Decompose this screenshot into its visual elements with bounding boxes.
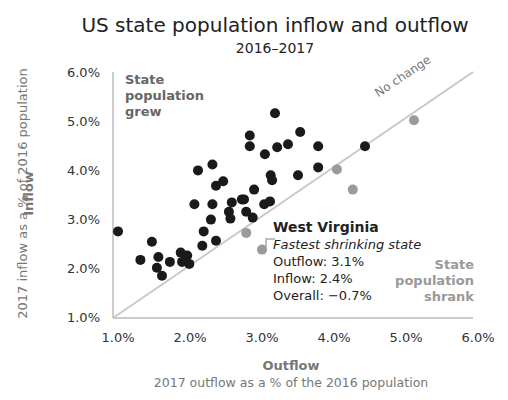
data-point (199, 226, 209, 236)
data-point (206, 215, 216, 225)
data-point (293, 170, 303, 180)
data-point (409, 115, 419, 125)
data-point (245, 131, 255, 141)
data-point (197, 241, 207, 251)
region-grew-line: State (125, 72, 215, 88)
data-point (207, 160, 217, 170)
data-point (248, 213, 258, 223)
data-point (153, 252, 163, 262)
scatter-plot (0, 0, 508, 400)
annotation-outflow: Outflow: 3.1% (273, 253, 421, 270)
data-point (193, 165, 203, 175)
data-point (283, 139, 293, 149)
data-point (165, 257, 175, 267)
data-point (249, 185, 259, 195)
data-point (211, 236, 221, 246)
data-point (225, 214, 235, 224)
data-point (241, 228, 251, 238)
data-point (313, 141, 323, 151)
west-virginia-annotation: West Virginia Fastest shrinking state Ou… (273, 219, 421, 304)
data-point (147, 237, 157, 247)
data-point (270, 108, 280, 118)
region-grew-line: population (125, 88, 215, 104)
data-point (313, 162, 323, 172)
data-point (360, 141, 370, 151)
data-point (267, 175, 277, 185)
data-point (207, 199, 217, 209)
data-point (239, 194, 249, 204)
data-point (227, 197, 237, 207)
data-point (157, 271, 167, 281)
data-point (184, 259, 194, 269)
data-point (272, 142, 282, 152)
annotation-tag: Fastest shrinking state (273, 236, 421, 253)
data-point (265, 196, 275, 206)
data-point (189, 199, 199, 209)
data-point (260, 149, 270, 159)
data-point (218, 176, 228, 186)
data-point (332, 164, 342, 174)
annotation-inflow: Inflow: 2.4% (273, 270, 421, 287)
data-point (245, 141, 255, 151)
region-grew-line: grew (125, 104, 215, 120)
region-label-grew: State population grew (125, 72, 215, 120)
annotation-overall: Overall: −0.7% (273, 287, 421, 304)
annotation-state: West Virginia (273, 219, 421, 236)
data-point (295, 127, 305, 137)
data-point (135, 255, 145, 265)
data-point (113, 226, 123, 236)
data-point (348, 185, 358, 195)
data-point (182, 251, 192, 261)
data-point (257, 245, 267, 255)
